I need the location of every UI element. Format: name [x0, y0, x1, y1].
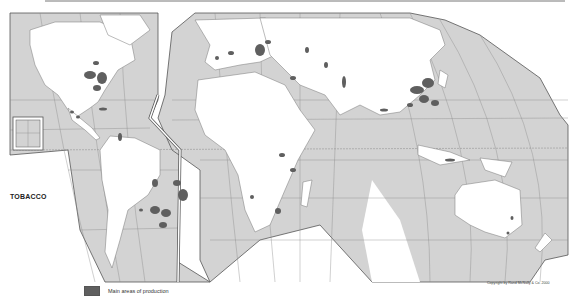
copyright-notice: Copyright by Rand McNally & Co. 2000: [487, 281, 550, 285]
map-title: TOBACCO: [10, 193, 47, 200]
legend: Main areas of production: [84, 286, 169, 296]
legend-label: Main areas of production: [108, 288, 169, 294]
legend-swatch-production: [84, 286, 100, 296]
world-map: [0, 0, 579, 305]
